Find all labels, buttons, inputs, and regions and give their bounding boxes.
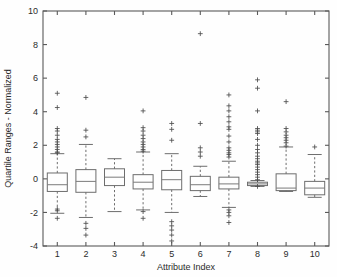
x-tick-label: 10 bbox=[310, 249, 320, 259]
boxplot-figure: -4-2024681012345678910Attribute IndexQua… bbox=[0, 0, 337, 277]
box-group bbox=[305, 145, 325, 198]
y-tick-label: 10 bbox=[28, 6, 38, 16]
box-group bbox=[248, 77, 268, 188]
boxplot-svg: -4-2024681012345678910Attribute IndexQua… bbox=[0, 0, 337, 277]
box-group bbox=[276, 99, 296, 191]
box-rect bbox=[47, 173, 67, 191]
box-group bbox=[133, 108, 153, 220]
x-tick-label: 2 bbox=[83, 249, 88, 259]
box-rect bbox=[219, 177, 239, 189]
box-group bbox=[162, 121, 182, 243]
x-tick-label: 1 bbox=[55, 249, 60, 259]
y-tick-label: -2 bbox=[30, 208, 38, 218]
y-tick-label: 6 bbox=[33, 73, 38, 83]
x-tick-label: 8 bbox=[255, 249, 260, 259]
box-rect bbox=[190, 176, 210, 190]
x-tick-label: 7 bbox=[226, 249, 231, 259]
y-axis-title: Quartile Ranges - Normalized bbox=[3, 69, 13, 188]
x-tick-label: 5 bbox=[169, 249, 174, 259]
x-tick-label: 3 bbox=[112, 249, 117, 259]
y-tick-label: 0 bbox=[33, 174, 38, 184]
box-group bbox=[190, 31, 210, 196]
box-group bbox=[105, 159, 125, 212]
box-group bbox=[76, 95, 96, 237]
x-axis-title: Attribute Index bbox=[157, 262, 216, 272]
box-group bbox=[219, 93, 239, 225]
y-tick-label: -4 bbox=[30, 241, 38, 251]
x-tick-label: 6 bbox=[198, 249, 203, 259]
y-tick-label: 8 bbox=[33, 40, 38, 50]
y-tick-label: 2 bbox=[33, 140, 38, 150]
box-group bbox=[47, 91, 67, 221]
y-tick-label: 4 bbox=[33, 107, 38, 117]
x-tick-label: 9 bbox=[284, 249, 289, 259]
x-tick-label: 4 bbox=[141, 249, 146, 259]
